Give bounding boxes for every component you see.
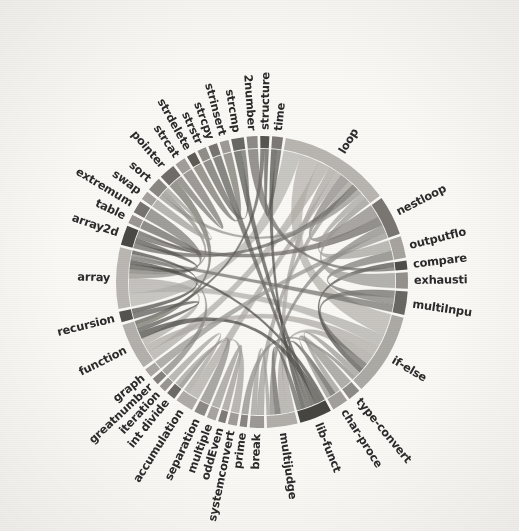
chord-arc-compare[interactable] (395, 260, 408, 270)
chord-arc-strcmp[interactable] (231, 137, 245, 151)
chord-label-structure: structure (257, 72, 272, 131)
chord-label-break: break (248, 433, 263, 470)
chord-arc-2number[interactable] (247, 136, 258, 149)
chord-arc-exhausti[interactable] (396, 272, 408, 288)
chord-arc-structure[interactable] (260, 136, 269, 148)
chord-arc-break[interactable] (250, 416, 265, 428)
chord-diagram-canvas: timeloopnestloopoutputflocompareexhausti… (0, 0, 519, 531)
chord-label-array: array (77, 270, 111, 285)
chord-diagram-figure: timeloopnestloopoutputflocompareexhausti… (0, 0, 519, 531)
chord-label-exhausti: exhausti (414, 272, 468, 287)
chord-arc-time[interactable] (271, 136, 283, 149)
